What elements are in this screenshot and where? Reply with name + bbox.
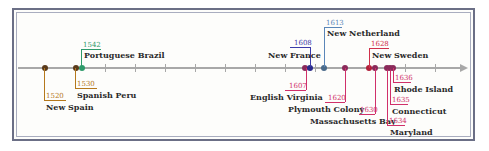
tick-mark	[285, 64, 286, 72]
tick-mark	[255, 64, 256, 72]
event-underline-1634	[387, 125, 405, 126]
tick-mark	[225, 64, 226, 72]
event-year: 1608	[294, 39, 312, 47]
event-year: 1542	[83, 41, 101, 49]
tick-mark	[405, 64, 406, 72]
event-underline-1636	[393, 82, 411, 83]
event-year: 1628	[371, 40, 389, 48]
event-underline-1520	[44, 100, 66, 101]
event-year: 1634	[389, 117, 407, 125]
event-year: 1620	[328, 94, 346, 102]
event-year: 1520	[46, 92, 64, 100]
event-underline-1530	[75, 88, 97, 89]
event-label: Portuguese Brazil	[84, 50, 165, 60]
event-label: New Spain	[46, 102, 93, 112]
event-label: Spanish Peru	[77, 90, 136, 100]
event-stem-1542	[81, 49, 82, 68]
event-label: Maryland	[390, 127, 433, 137]
tick-mark	[315, 64, 316, 72]
event-underline-1608	[290, 47, 310, 48]
event-underline-1607	[285, 90, 306, 91]
tick-mark	[165, 64, 166, 72]
event-year: 1630	[360, 106, 378, 114]
axis-arrow-icon	[460, 64, 468, 72]
event-stem-1613	[324, 27, 325, 67]
event-label: New Netherland	[327, 28, 400, 38]
event-label: English Virginia	[250, 92, 323, 102]
event-year: 1613	[326, 19, 344, 27]
event-underline-1620	[325, 102, 345, 103]
event-year: 1530	[77, 80, 95, 88]
event-underline-1628	[369, 48, 389, 49]
event-stem-1520	[44, 68, 45, 100]
event-stem-1634	[387, 68, 388, 125]
event-stem-1628	[369, 48, 370, 68]
event-dot-1520	[42, 65, 48, 71]
event-label: Massachusetts Bay	[310, 116, 396, 126]
event-label: Rhode Island	[394, 84, 453, 94]
event-stem-1530	[75, 68, 76, 88]
event-underline-1630	[359, 114, 375, 115]
event-year: 1607	[289, 82, 307, 90]
event-underline-1635	[390, 104, 408, 105]
event-year: 1635	[392, 96, 410, 104]
tick-mark	[435, 64, 436, 72]
event-label: Connecticut	[392, 106, 446, 116]
event-label: New Sweden	[372, 50, 428, 60]
tick-mark	[135, 64, 136, 72]
tick-mark	[195, 64, 196, 72]
event-stem-1636	[393, 68, 394, 82]
event-label: Plymouth Colony	[288, 104, 364, 114]
tick-mark	[105, 64, 106, 72]
event-year: 1636	[395, 74, 413, 82]
event-stem-1635	[390, 68, 391, 104]
event-dot-1542	[79, 65, 85, 71]
event-label: New France	[268, 50, 321, 60]
